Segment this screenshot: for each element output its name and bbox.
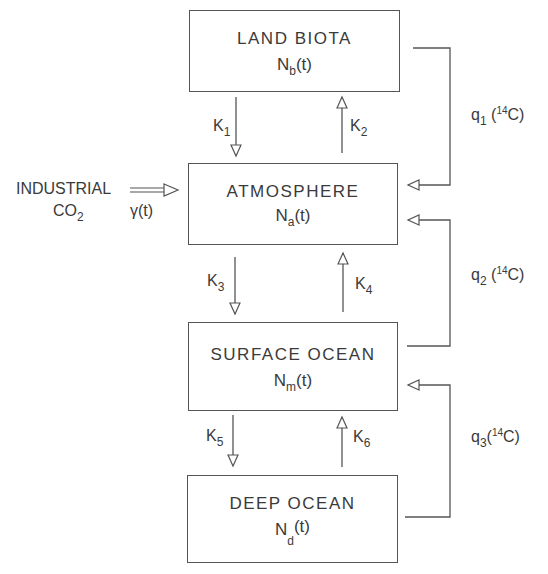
isotope-flux-q2: q2 (14C): [471, 266, 524, 284]
reservoir-title: DEEP OCEAN: [188, 494, 397, 514]
industrial-rate-label: γ(t): [130, 202, 153, 220]
industrial-source-label: INDUSTRIAL: [16, 180, 111, 198]
reservoir-variable: Nm(t): [189, 371, 397, 391]
flux-loop-q1: [408, 48, 450, 185]
reservoir-variable: Nb(t): [190, 55, 399, 75]
reservoir-surface-ocean: SURFACE OCEAN Nm(t): [188, 322, 398, 411]
coefficient-k4: K4: [355, 275, 372, 293]
coefficient-k5: K5: [206, 427, 223, 445]
isotope-flux-q3: q3(14C): [471, 428, 520, 446]
coefficient-k6: K6: [353, 428, 370, 446]
reservoir-variable: Na(t): [189, 206, 397, 226]
reservoir-title: ATMOSPHERE: [189, 182, 397, 202]
industrial-input-arrow: [130, 184, 178, 196]
isotope-flux-q1: q1 (14C): [471, 106, 524, 124]
industrial-co2-label: CO2: [53, 202, 84, 220]
reservoir-title: LAND BIOTA: [190, 29, 399, 49]
coefficient-k1: K1: [213, 117, 230, 135]
coefficient-k3: K3: [207, 272, 224, 290]
flux-loop-q2: [407, 220, 450, 346]
reservoir-land-biota: LAND BIOTA Nb(t): [189, 10, 400, 92]
reservoir-deep-ocean: DEEP OCEAN Nd(t): [187, 475, 398, 563]
reservoir-variable: Nd(t): [188, 520, 397, 540]
reservoir-atmosphere: ATMOSPHERE Na(t): [188, 163, 398, 245]
coefficient-k2: K2: [350, 117, 367, 135]
reservoir-title: SURFACE OCEAN: [189, 345, 397, 365]
flux-loop-q3: [405, 385, 450, 517]
